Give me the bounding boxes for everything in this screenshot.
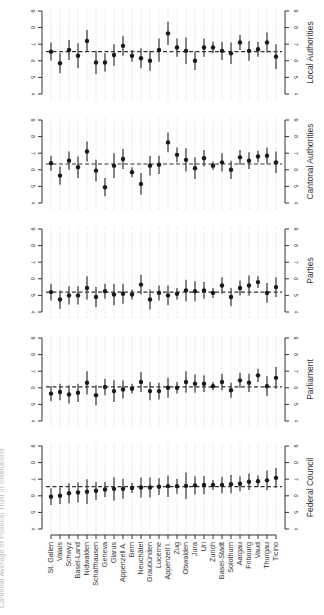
y-tick-label: 9 — [293, 227, 299, 230]
data-point — [220, 483, 224, 487]
y-tick-label: 7 — [293, 478, 299, 481]
panel-parties: 456789456789Parties — [30, 227, 316, 318]
data-point — [148, 59, 152, 63]
canton-label: Appenzell A. — [118, 542, 127, 582]
data-point — [184, 49, 188, 53]
data-point — [238, 286, 242, 290]
data-point — [76, 54, 80, 58]
data-point — [103, 385, 107, 389]
data-point — [85, 39, 89, 43]
canton-label: Nidwalden — [82, 542, 91, 576]
data-point — [202, 381, 206, 385]
data-point — [211, 45, 215, 49]
canton-label: Zurich — [208, 542, 217, 562]
data-point — [157, 484, 161, 488]
y-tick-label: 5 — [30, 76, 36, 79]
data-point — [193, 483, 197, 487]
data-point — [58, 173, 62, 177]
data-point — [238, 40, 242, 44]
canton-label: Aargau — [235, 542, 244, 565]
y-tick-label: 4 — [30, 419, 36, 422]
data-point — [238, 481, 242, 485]
y-tick-label: 4 — [30, 527, 36, 530]
panel-cantonal-authorities: 456789456789Cantonal Authorities — [30, 118, 316, 209]
data-point — [76, 391, 80, 395]
data-point — [274, 476, 278, 480]
data-point — [166, 140, 170, 144]
data-point — [265, 384, 269, 388]
y-tick-label: 8 — [30, 353, 36, 356]
data-point — [184, 158, 188, 162]
y-tick-label: 4 — [30, 92, 36, 95]
y-tick-label: 6 — [293, 59, 299, 62]
data-point — [256, 280, 260, 284]
data-point — [229, 168, 233, 172]
canton-label: Thurgau — [262, 542, 271, 569]
data-point — [139, 282, 143, 286]
canton-label: Appenzell I. — [163, 542, 172, 580]
data-point — [166, 31, 170, 35]
data-point — [67, 293, 71, 297]
data-point — [202, 288, 206, 292]
data-point — [112, 53, 116, 57]
data-point — [184, 484, 188, 488]
data-point — [94, 60, 98, 64]
data-point — [220, 49, 224, 53]
data-point — [220, 283, 224, 287]
data-point — [265, 291, 269, 295]
data-point — [85, 381, 89, 385]
data-point — [58, 297, 62, 301]
data-point — [148, 389, 152, 393]
data-point — [49, 494, 53, 498]
data-point — [184, 380, 188, 384]
y-tick-label: 7 — [30, 152, 36, 155]
data-point — [121, 44, 125, 48]
data-point — [238, 378, 242, 382]
data-point — [166, 293, 170, 297]
data-point — [76, 490, 80, 494]
y-tick-label: 6 — [30, 277, 36, 280]
y-tick-label: 7 — [293, 152, 299, 155]
y-tick-label: 5 — [293, 76, 299, 79]
data-point — [229, 295, 233, 299]
data-point — [211, 384, 215, 388]
y-tick-label: 5 — [293, 403, 299, 406]
trust-in-institutions-chart: 456789456789Local Authorities45678945678… — [0, 0, 324, 615]
data-point — [220, 380, 224, 384]
data-point — [85, 286, 89, 290]
data-point — [175, 153, 179, 157]
canton-label: Uri — [199, 542, 208, 552]
y-tick-label: 4 — [293, 310, 299, 313]
data-point — [247, 283, 251, 287]
data-point — [94, 393, 98, 397]
y-tick-label: 7 — [293, 43, 299, 46]
data-point — [274, 376, 278, 380]
data-point — [202, 483, 206, 487]
canton-label: Fribourg — [244, 542, 253, 569]
y-tick-label: 7 — [30, 43, 36, 46]
data-point — [184, 288, 188, 292]
y-tick-label: 8 — [30, 461, 36, 464]
data-point — [49, 49, 53, 53]
data-point — [202, 45, 206, 49]
chart-canvas: 456789456789Local Authorities45678945678… — [0, 0, 324, 615]
data-point — [274, 54, 278, 58]
data-point — [121, 292, 125, 296]
data-point — [130, 486, 134, 490]
data-point — [175, 45, 179, 49]
y-tick-label: 6 — [293, 168, 299, 171]
canton-label: Bern — [127, 542, 136, 557]
canton-label: Neuchâtel — [136, 542, 145, 575]
data-point — [211, 291, 215, 295]
panel-local-authorities: 456789456789Local Authorities — [30, 9, 316, 100]
data-point — [256, 154, 260, 158]
data-point — [103, 487, 107, 491]
data-point — [256, 47, 260, 51]
data-point — [148, 163, 152, 167]
data-point — [211, 163, 215, 167]
y-tick-label: 7 — [293, 261, 299, 264]
data-point — [58, 390, 62, 394]
y-tick-label: 8 — [293, 244, 299, 247]
data-point — [103, 289, 107, 293]
y-tick-label: 7 — [30, 370, 36, 373]
